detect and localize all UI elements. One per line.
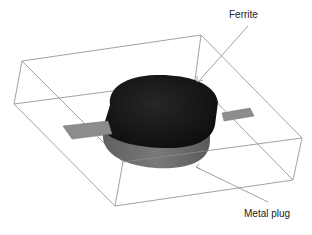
- ferrite-leader: [198, 26, 248, 82]
- ferrite-label: Ferrite: [229, 9, 258, 20]
- diagram-canvas: Ferrite Metal plug: [0, 0, 312, 235]
- right-strip: [222, 108, 254, 121]
- ferrite-cylinder: [103, 75, 218, 148]
- ferrite-assembly-illustration: [0, 0, 312, 235]
- metal-plug-label: Metal plug: [244, 208, 290, 219]
- metal-plug-leader: [196, 167, 268, 202]
